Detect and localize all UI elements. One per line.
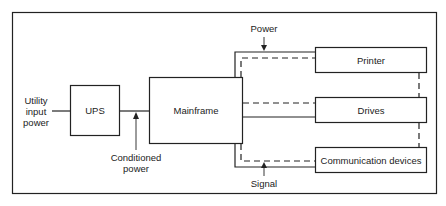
conditioned-power-annotation: Conditioned power — [108, 152, 164, 174]
utility-line-3: power — [20, 117, 52, 128]
conditioned-line-2: power — [108, 163, 164, 174]
conditioned-line-1: Conditioned — [108, 152, 164, 163]
conditioned-power-arrowhead — [133, 112, 139, 119]
utility-line-2: input — [20, 106, 52, 117]
communication-devices-label: Communication devices — [316, 148, 426, 172]
drives-label: Drives — [316, 98, 426, 122]
ups-label: UPS — [71, 86, 119, 135]
utility-input-power-label: Utility input power — [20, 95, 52, 128]
power-line-communication — [235, 144, 315, 167]
mainframe-label: Mainframe — [150, 78, 242, 143]
power-annotation: Power — [244, 23, 284, 34]
power-arrowhead — [261, 45, 267, 51]
signal-line-communication — [241, 144, 315, 161]
power-line-printer — [235, 52, 315, 77]
utility-line-1: Utility — [20, 95, 52, 106]
signal-line-printer — [241, 58, 315, 77]
printer-label: Printer — [316, 48, 426, 72]
signal-annotation: Signal — [244, 178, 284, 189]
signal-arrowhead — [261, 162, 267, 168]
